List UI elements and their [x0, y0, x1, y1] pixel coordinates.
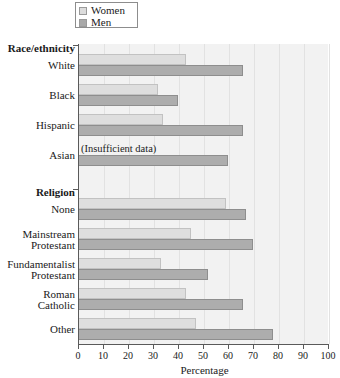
bar-men [79, 125, 243, 136]
category-label: FundamentalistProtestant [0, 259, 75, 281]
category-label-line1: Asian [49, 149, 75, 161]
legend-swatch-men-icon [79, 19, 87, 27]
bar-women [79, 288, 186, 299]
x-tick-mark [303, 345, 304, 349]
category-label: None [0, 204, 75, 215]
category-label-line1: Black [49, 89, 75, 101]
group-title-race-ethnicity: Race/ethnicity [8, 42, 75, 54]
category-label-line1: None [51, 203, 75, 215]
category-label-line1: Other [50, 323, 75, 335]
bar-men [79, 329, 273, 340]
x-tick-label: 30 [141, 350, 165, 361]
x-tick-label: 10 [91, 350, 115, 361]
bar-women [79, 258, 161, 269]
x-tick-label: 60 [216, 350, 240, 361]
bar-women [79, 198, 226, 209]
gridline [329, 44, 330, 344]
x-tick-mark [253, 345, 254, 349]
category-label-line2: Catholic [0, 300, 75, 311]
category-label: Asian [0, 150, 75, 161]
x-tick-mark [78, 345, 79, 349]
bar-women [79, 54, 186, 65]
x-tick-mark [328, 345, 329, 349]
bar-men [79, 209, 246, 220]
x-tick-label: 70 [241, 350, 265, 361]
bar-men [79, 155, 228, 166]
x-tick-mark [228, 345, 229, 349]
bar-men [79, 65, 243, 76]
bar-men [79, 299, 243, 310]
x-tick-label: 50 [191, 350, 215, 361]
gridline [304, 44, 305, 344]
x-tick-mark [103, 345, 104, 349]
x-tick-mark [128, 345, 129, 349]
x-tick-label: 90 [291, 350, 315, 361]
gridline [254, 44, 255, 344]
bar-women [79, 114, 163, 125]
legend-label-women: Women [91, 5, 125, 16]
category-label: MainstreamProtestant [0, 229, 75, 251]
category-label-line1: White [48, 59, 75, 71]
bar-men [79, 95, 178, 106]
bar-men [79, 269, 208, 280]
bar-men [79, 239, 253, 250]
x-tick-mark [178, 345, 179, 349]
category-label: Other [0, 324, 75, 335]
x-tick-mark [153, 345, 154, 349]
chart-legend: Women Men [75, 2, 138, 28]
x-tick-mark [203, 345, 204, 349]
insufficient-data-note: (Insufficient data) [81, 143, 156, 154]
x-tick-label: 40 [166, 350, 190, 361]
bar-women [79, 318, 196, 329]
category-label-line2: Protestant [0, 240, 75, 251]
category-label-line1: Hispanic [36, 119, 75, 131]
legend-swatch-women-icon [79, 7, 87, 15]
gridline [279, 44, 280, 344]
bar-women [79, 228, 191, 239]
group-bracket [73, 189, 79, 194]
legend-label-men: Men [91, 17, 111, 28]
x-axis-title: Percentage [0, 364, 331, 376]
x-tick-mark [278, 345, 279, 349]
x-tick-label: 100 [316, 350, 340, 361]
legend-entry-men: Men [79, 17, 137, 28]
category-label-line2: Protestant [0, 270, 75, 281]
group-title-religion: Religion [36, 186, 75, 198]
group-bracket [73, 45, 79, 50]
category-label: Black [0, 90, 75, 101]
category-label: RomanCatholic [0, 289, 75, 311]
legend-entry-women: Women [79, 5, 137, 16]
category-label: White [0, 60, 75, 71]
category-label: Hispanic [0, 120, 75, 131]
x-tick-label: 20 [116, 350, 140, 361]
x-tick-label: 0 [66, 350, 90, 361]
bar-women [79, 84, 158, 95]
x-tick-label: 80 [266, 350, 290, 361]
